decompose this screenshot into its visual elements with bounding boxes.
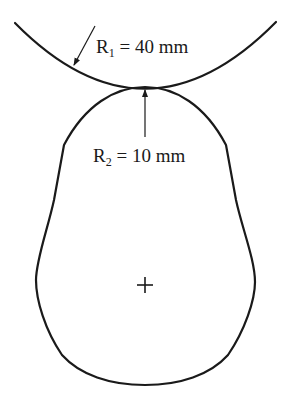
center-plus-icon: [137, 277, 153, 293]
r2-label: R2 = 10 mm: [93, 145, 185, 169]
contact-diagram: R1 = 40 mm R2 = 10 mm: [0, 0, 288, 398]
r1-label: R1 = 40 mm: [96, 36, 188, 60]
r1-arrow: [74, 26, 95, 65]
